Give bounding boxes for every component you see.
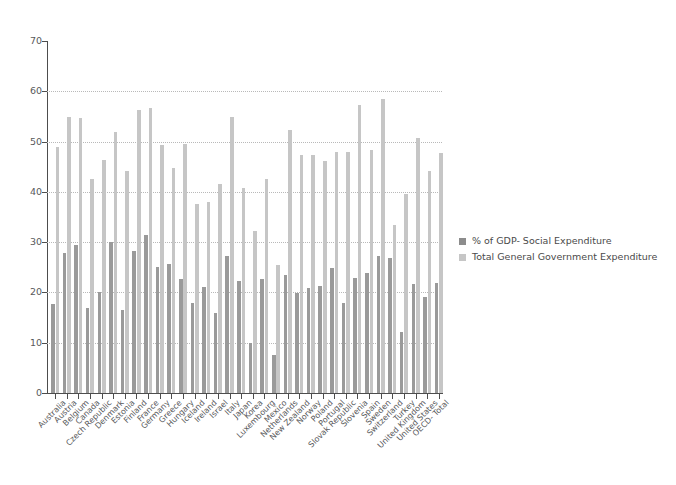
x-tick-mark [113, 394, 114, 399]
bar [370, 150, 374, 393]
bar [276, 265, 280, 393]
y-tick: 60 [0, 91, 42, 92]
x-tick-mark [346, 394, 347, 399]
bar [214, 313, 218, 393]
bar [167, 264, 171, 393]
bar [307, 288, 311, 393]
x-tick-mark [218, 394, 219, 399]
x-tick-mark [125, 394, 126, 399]
bar [230, 117, 234, 393]
x-tick-mark [90, 394, 91, 399]
bar [377, 256, 381, 393]
bar [318, 286, 322, 393]
y-tick-label: 20 [8, 288, 42, 298]
y-tick-label: 50 [8, 137, 42, 147]
x-tick-mark [148, 394, 149, 399]
bar [346, 152, 350, 393]
bar [428, 171, 432, 393]
x-tick-mark [206, 394, 207, 399]
bar [358, 105, 362, 393]
x-tick-mark [288, 394, 289, 399]
y-tick: 30 [0, 242, 42, 243]
bar [132, 251, 136, 393]
bar [114, 132, 118, 393]
bar [74, 245, 78, 393]
bar [207, 202, 211, 393]
bar [172, 168, 176, 393]
bar [393, 225, 397, 393]
bar [242, 188, 246, 393]
x-tick-mark [136, 394, 137, 399]
bar [202, 287, 206, 393]
bar [237, 281, 241, 393]
bar [272, 355, 276, 393]
bar [295, 293, 299, 393]
x-tick-mark [253, 394, 254, 399]
x-tick-mark [299, 394, 300, 399]
bar [102, 160, 106, 393]
bar [288, 130, 292, 393]
bar [404, 194, 408, 393]
y-tick-label: 70 [8, 36, 42, 46]
legend-label-social: % of GDP- Social Expenditure [472, 236, 612, 246]
bar [265, 179, 269, 393]
bar [311, 155, 315, 393]
y-tick: 70 [0, 41, 42, 42]
x-tick-mark [427, 394, 428, 399]
bar [300, 155, 304, 393]
y-tick-label: 60 [8, 87, 42, 97]
gridline [47, 91, 442, 92]
bar [225, 256, 229, 393]
y-tick-label: 40 [8, 187, 42, 197]
bar [381, 99, 385, 393]
bar [137, 110, 141, 393]
y-tick-label: 10 [8, 338, 42, 348]
y-tick: 50 [0, 142, 42, 143]
bar [86, 308, 90, 393]
legend-swatch-total-icon [459, 254, 466, 261]
y-tick-mark [42, 393, 47, 394]
bar [423, 297, 427, 393]
x-tick-mark [195, 394, 196, 399]
x-tick-mark [67, 394, 68, 399]
x-axis-line [47, 393, 443, 394]
x-tick-mark [102, 394, 103, 399]
bar [416, 138, 420, 393]
legend-label-total: Total General Government Expenditure [472, 252, 657, 262]
bar [79, 118, 83, 393]
x-tick-mark [404, 394, 405, 399]
legend-item-total[interactable]: Total General Government Expenditure [459, 252, 669, 262]
bar [342, 303, 346, 394]
x-tick-mark [381, 394, 382, 399]
bar [160, 145, 164, 393]
y-tick: 10 [0, 343, 42, 344]
x-tick-mark [334, 394, 335, 399]
x-tick-mark [78, 394, 79, 399]
bar [400, 332, 404, 393]
bar [365, 273, 369, 393]
chart-container: 010203040506070 AustraliaAustriaBelgiumC… [0, 0, 676, 485]
y-tick: 0 [0, 393, 42, 394]
y-tick-label: 0 [8, 388, 42, 398]
bar [125, 171, 129, 393]
chart-legend: % of GDP- Social Expenditure Total Gener… [459, 236, 669, 269]
bar [284, 275, 288, 393]
bar [191, 303, 195, 393]
x-tick-mark [183, 394, 184, 399]
x-tick-mark [357, 394, 358, 399]
bar [353, 278, 357, 393]
x-tick-mark [323, 394, 324, 399]
x-tick-mark [230, 394, 231, 399]
bar [56, 147, 60, 393]
bar [183, 144, 187, 393]
bar [90, 179, 94, 393]
x-tick-mark [264, 394, 265, 399]
legend-item-social[interactable]: % of GDP- Social Expenditure [459, 236, 669, 246]
bar [144, 235, 148, 393]
x-tick-mark [55, 394, 56, 399]
y-tick-label: 30 [8, 237, 42, 247]
bar [67, 117, 71, 393]
bar [388, 258, 392, 393]
bar [218, 184, 222, 393]
bar [412, 284, 416, 393]
